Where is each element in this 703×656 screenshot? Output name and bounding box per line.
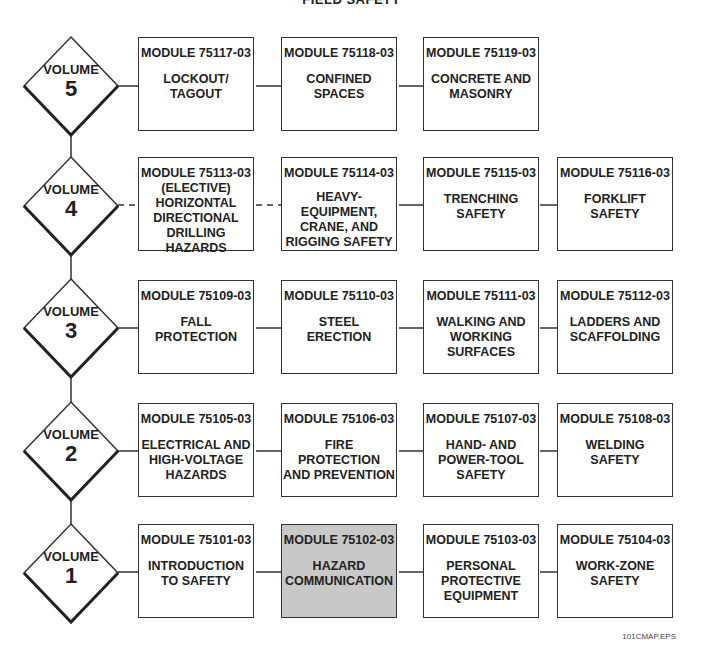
- module-name: INTRODUCTION TO SAFETY: [139, 559, 253, 589]
- module-code: MODULE 75109-03: [139, 289, 253, 303]
- module-name: WALKING AND WORKING SURFACES: [424, 315, 538, 360]
- module-code: MODULE 75107-03: [424, 412, 538, 426]
- module-code: MODULE 75102-03: [282, 533, 396, 547]
- module-name: LADDERS AND SCAFFOLDING: [558, 315, 672, 345]
- module-code: MODULE 75104-03: [558, 533, 672, 547]
- module-code: MODULE 75105-03: [139, 412, 253, 426]
- module-75111-box: MODULE 75111-03 WALKING AND WORKING SURF…: [423, 280, 539, 374]
- module-name: CONCRETE AND MASONRY: [424, 72, 538, 102]
- module-code: MODULE 75115-03: [424, 166, 538, 180]
- module-75112-box: MODULE 75112-03 LADDERS AND SCAFFOLDING: [557, 280, 673, 374]
- module-name: HAND- AND POWER-TOOL SAFETY: [424, 438, 538, 483]
- module-name: FALL PROTECTION: [139, 315, 253, 345]
- module-75105-box: MODULE 75105-03 ELECTRICAL AND HIGH-VOLT…: [138, 403, 254, 497]
- volume-number: 1: [24, 564, 118, 588]
- module-code: MODULE 75103-03: [424, 533, 538, 547]
- module-name: HAZARD COMMUNICATION: [282, 559, 396, 589]
- volume-3-label: VOLUME 3: [24, 304, 118, 343]
- module-75102-box-highlighted: MODULE 75102-03 HAZARD COMMUNICATION: [281, 524, 397, 618]
- module-code: MODULE 75111-03: [424, 289, 538, 303]
- module-name: WELDING SAFETY: [558, 438, 672, 468]
- module-code: MODULE 75117-03: [139, 46, 253, 60]
- module-code: MODULE 75116-03: [558, 166, 672, 180]
- module-code: MODULE 75106-03: [282, 412, 396, 426]
- module-code: MODULE 75114-03: [282, 166, 396, 180]
- module-75108-box: MODULE 75108-03 WELDING SAFETY: [557, 403, 673, 497]
- module-name: FORKLIFT SAFETY: [558, 192, 672, 222]
- module-name: WORK-ZONE SAFETY: [558, 559, 672, 589]
- module-name: ELECTRICAL AND HIGH-VOLTAGE HAZARDS: [139, 438, 253, 483]
- module-code: MODULE 75108-03: [558, 412, 672, 426]
- module-code: MODULE 75110-03: [282, 289, 396, 303]
- module-75103-box: MODULE 75103-03 PERSONAL PROTECTIVE EQUI…: [423, 524, 539, 618]
- module-75114-box: MODULE 75114-03 HEAVY- EQUIPMENT, CRANE,…: [281, 157, 397, 251]
- module-name: LOCKOUT/ TAGOUT: [139, 72, 253, 102]
- volume-number: 2: [24, 442, 118, 466]
- volume-number: 5: [24, 77, 118, 101]
- module-75117-box: MODULE 75117-03 LOCKOUT/ TAGOUT: [138, 37, 254, 131]
- module-75115-box: MODULE 75115-03 TRENCHING SAFETY: [423, 157, 539, 251]
- volume-2-label: VOLUME 2: [24, 427, 118, 466]
- module-code: MODULE 75113-03: [139, 166, 253, 180]
- module-75101-box: MODULE 75101-03 INTRODUCTION TO SAFETY: [138, 524, 254, 618]
- module-name: HEAVY- EQUIPMENT, CRANE, AND RIGGING SAF…: [282, 190, 396, 250]
- module-75107-box: MODULE 75107-03 HAND- AND POWER-TOOL SAF…: [423, 403, 539, 497]
- volume-text: VOLUME: [24, 427, 118, 442]
- module-75106-box: MODULE 75106-03 FIRE PROTECTION AND PREV…: [281, 403, 397, 497]
- volume-text: VOLUME: [24, 304, 118, 319]
- file-name-caption: 101CMAP.EPS: [622, 632, 676, 641]
- volume-5-label: VOLUME 5: [24, 62, 118, 101]
- module-75110-box: MODULE 75110-03 STEEL ERECTION: [281, 280, 397, 374]
- module-75116-box: MODULE 75116-03 FORKLIFT SAFETY: [557, 157, 673, 251]
- module-name: CONFINED SPACES: [282, 72, 396, 102]
- module-75109-box: MODULE 75109-03 FALL PROTECTION: [138, 280, 254, 374]
- module-75113-box: MODULE 75113-03 (ELECTIVE) HORIZONTAL DI…: [138, 157, 254, 251]
- module-75118-box: MODULE 75118-03 CONFINED SPACES: [281, 37, 397, 131]
- volume-number: 4: [24, 197, 118, 221]
- module-name: STEEL ERECTION: [282, 315, 396, 345]
- module-name: TRENCHING SAFETY: [424, 192, 538, 222]
- volume-text: VOLUME: [24, 182, 118, 197]
- volume-text: VOLUME: [24, 549, 118, 564]
- module-75104-box: MODULE 75104-03 WORK-ZONE SAFETY: [557, 524, 673, 618]
- module-code: MODULE 75101-03: [139, 533, 253, 547]
- module-code: MODULE 75119-03: [424, 46, 538, 60]
- module-75119-box: MODULE 75119-03 CONCRETE AND MASONRY: [423, 37, 539, 131]
- module-code: MODULE 75112-03: [558, 289, 672, 303]
- module-name: PERSONAL PROTECTIVE EQUIPMENT: [424, 559, 538, 604]
- module-code: MODULE 75118-03: [282, 46, 396, 60]
- volume-4-label: VOLUME 4: [24, 182, 118, 221]
- volume-number: 3: [24, 319, 118, 343]
- module-name: (ELECTIVE) HORIZONTAL DIRECTIONAL DRILLI…: [139, 181, 253, 256]
- volume-text: VOLUME: [24, 62, 118, 77]
- volume-1-label: VOLUME 1: [24, 549, 118, 588]
- module-name: FIRE PROTECTION AND PREVENTION: [282, 438, 396, 483]
